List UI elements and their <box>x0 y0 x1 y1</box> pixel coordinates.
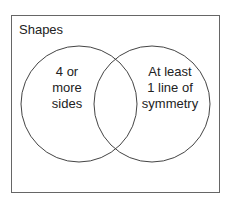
venn-diagram: Shapes 4 or more sides At least 1 line o… <box>0 0 229 199</box>
set-a-label-line: sides <box>52 96 83 111</box>
set-a-label: 4 or more sides <box>52 64 83 111</box>
set-b-label-line: At least <box>148 64 192 79</box>
set-b-label: At least 1 line of symmetry <box>142 64 199 111</box>
set-a-label-line: more <box>52 80 82 95</box>
set-b-label-line: 1 line of <box>147 80 193 95</box>
set-a-label-line: 4 or <box>56 64 79 79</box>
set-b-label-line: symmetry <box>142 96 199 111</box>
universe-label: Shapes <box>19 22 64 37</box>
